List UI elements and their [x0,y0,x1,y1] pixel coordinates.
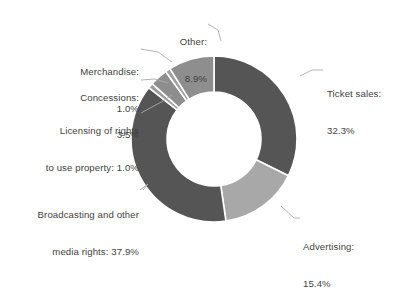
slice-label-advertising-line1: Advertising: [303,241,354,253]
slice-label-other-line2: 8.9% [145,73,207,85]
slice-label-merchandise: Merchandise: 1.0% [8,42,139,140]
slice-label-ticket-sales: Ticket sales: 32.3% [327,64,381,162]
slice-label-merchandise-line2: 1.0% [8,103,139,115]
slice-label-other: Other: 8.9% [145,12,207,110]
slice-label-advertising: Advertising: 15.4% [303,217,354,291]
slice-label-broadcasting-line1: Broadcasting and other [8,209,139,221]
slice-label-ticket-sales-line2: 32.3% [327,125,381,137]
slice-label-merchandise-line1: Merchandise: [8,66,139,78]
leader-line-ticket-sales [300,70,323,76]
slice-label-broadcasting: Broadcasting and other media rights: 37.… [8,185,139,283]
slice-label-advertising-line2: 15.4% [303,278,354,290]
leader-line-other [208,24,221,41]
slice-label-ticket-sales-line1: Ticket sales: [327,88,381,100]
leader-line-advertising [281,206,300,218]
donut-slice-ticket-sales[interactable]: Ticket sales: 32.3% [214,56,297,176]
slice-label-other-line1: Other: [145,36,207,48]
slice-label-broadcasting-line2: media rights: 37.9% [8,246,139,258]
